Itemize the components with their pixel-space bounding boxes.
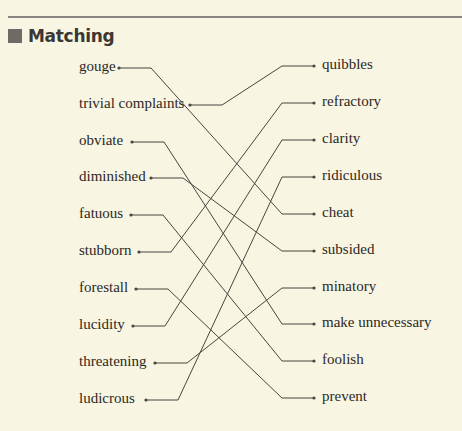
connector-dot-icon bbox=[137, 250, 140, 253]
left-term: obviate bbox=[79, 131, 123, 149]
connector-dot-icon bbox=[312, 212, 315, 215]
connector-dot-icon bbox=[129, 213, 132, 216]
left-term: ludicrous bbox=[79, 389, 135, 407]
right-term: cheat bbox=[322, 203, 354, 221]
right-term: quibbles bbox=[322, 55, 373, 73]
connector-line bbox=[133, 140, 314, 326]
connector-dot-icon bbox=[144, 398, 147, 401]
left-term: fatuous bbox=[79, 204, 123, 222]
connector-dot-icon bbox=[131, 324, 134, 327]
connector-dot-icon bbox=[188, 103, 191, 106]
right-term: subsided bbox=[322, 240, 375, 258]
left-term: threatening bbox=[79, 352, 146, 370]
connector-dot-icon bbox=[312, 64, 315, 67]
connector-line bbox=[136, 289, 314, 398]
left-term: gouge bbox=[79, 57, 116, 75]
connector-dot-icon bbox=[130, 140, 133, 143]
connector-dot-icon bbox=[312, 138, 315, 141]
right-term: minatory bbox=[322, 277, 376, 295]
connector-dot-icon bbox=[312, 101, 315, 104]
right-term: foolish bbox=[322, 350, 364, 368]
connector-line bbox=[119, 68, 314, 214]
left-term: diminished bbox=[79, 167, 146, 185]
connector-line bbox=[190, 66, 314, 105]
connector-dot-icon bbox=[312, 359, 315, 362]
connector-dot-icon bbox=[153, 361, 156, 364]
matching-connector-lines bbox=[0, 0, 462, 431]
left-term: forestall bbox=[79, 278, 128, 296]
left-term: stubborn bbox=[79, 241, 132, 259]
right-term: make unnecessary bbox=[322, 313, 432, 331]
connector-dot-icon bbox=[312, 249, 315, 252]
connector-dot-icon bbox=[134, 287, 137, 290]
connector-dot-icon bbox=[312, 175, 315, 178]
right-term: prevent bbox=[322, 387, 367, 405]
connector-dot-icon bbox=[117, 66, 120, 69]
connector-dot-icon bbox=[149, 176, 152, 179]
connector-dot-icon bbox=[312, 286, 315, 289]
right-term: clarity bbox=[322, 129, 360, 147]
connector-dot-icon bbox=[312, 396, 315, 399]
connector-dot-icon bbox=[312, 322, 315, 325]
right-term: ridiculous bbox=[322, 166, 382, 184]
left-term: lucidity bbox=[79, 315, 125, 333]
left-term: trivial complaints bbox=[79, 94, 184, 112]
right-term: refractory bbox=[322, 92, 381, 110]
